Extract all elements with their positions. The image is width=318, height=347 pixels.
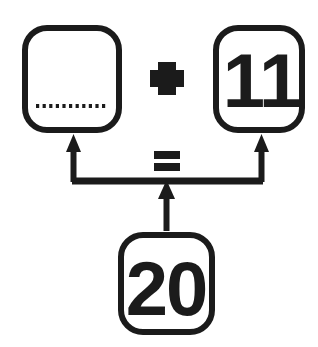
equals-icon-bottom-bar bbox=[154, 163, 180, 171]
left-branch-arrow-icon bbox=[66, 134, 81, 152]
equals-icon-top-bar bbox=[154, 151, 180, 159]
equals-icon: = bbox=[154, 151, 180, 171]
math-diagram: + 11 = 20 bbox=[0, 0, 318, 347]
plus-icon-horizontal-bar bbox=[150, 70, 184, 87]
box-addend-known-value: 11 bbox=[223, 38, 300, 123]
box-addend-unknown[interactable] bbox=[25, 28, 119, 130]
box-addend-known[interactable]: 11 bbox=[216, 28, 302, 130]
box-addend-unknown-outline bbox=[25, 28, 119, 130]
right-branch-arrow-icon bbox=[254, 134, 269, 152]
box-sum-total-value: 20 bbox=[126, 246, 207, 331]
plus-icon: + bbox=[150, 62, 184, 95]
diagram-canvas: + 11 = 20 bbox=[0, 0, 318, 347]
connector-group bbox=[66, 134, 269, 231]
box-sum-total[interactable]: 20 bbox=[121, 235, 212, 332]
